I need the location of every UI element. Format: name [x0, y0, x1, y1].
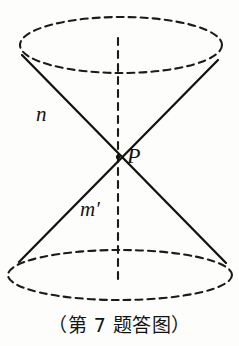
label-vertex-p: P	[127, 145, 140, 167]
vertex-point-marker	[116, 155, 120, 159]
figure-caption: （第 7 题答图）	[0, 310, 239, 337]
label-m-prime: m′	[80, 199, 100, 220]
double-cone-figure: n P m′ （第 7 题答图）	[0, 0, 239, 346]
bottom-base-ellipse	[8, 250, 232, 300]
slant-line-n	[22, 55, 226, 263]
top-base-ellipse	[20, 17, 222, 73]
label-n: n	[36, 104, 47, 125]
double-cone-diagram	[0, 0, 239, 346]
